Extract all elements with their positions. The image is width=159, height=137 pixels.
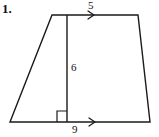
label-top-side: 5 [88,0,94,11]
label-height: 6 [71,62,77,73]
problem-number: 1. [2,2,12,15]
trapezoid-diagram [0,0,159,137]
geometry-figure: 1. 5 6 9 [0,0,159,137]
label-bottom-side: 9 [72,124,78,135]
trapezoid-outline [10,15,150,122]
